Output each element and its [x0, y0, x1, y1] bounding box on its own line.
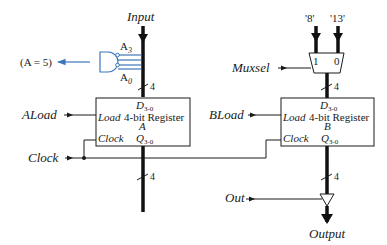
aload-label: ALoad — [21, 107, 57, 122]
register-b-load-label: Load — [282, 111, 306, 123]
bload-label: BLoad — [209, 107, 244, 122]
svg-text:4: 4 — [150, 171, 155, 182]
a3-label: A3 — [120, 40, 132, 55]
clock-label: Clock — [28, 150, 59, 165]
mux-to-b-bus: 4 — [321, 73, 339, 98]
a0-label: A0 — [120, 71, 132, 86]
input-bus — [138, 26, 148, 97]
bus-width-marker-input: 4 — [138, 81, 155, 92]
register-a-clock-label: Clock — [98, 132, 125, 144]
output-label: Output — [309, 226, 346, 241]
register-a-output-bus: 4 — [137, 146, 155, 212]
and-gate — [100, 52, 144, 72]
mux-inputs — [311, 26, 343, 53]
a-equals-5-label: (A = 5) — [20, 56, 52, 69]
input-label: Input — [126, 9, 155, 24]
register-b-output-bus: 4 — [321, 146, 339, 194]
svg-text:4: 4 — [150, 81, 155, 92]
out-label: Out — [225, 190, 245, 205]
svg-text:4: 4 — [334, 81, 339, 92]
mux-sel0-label: 0 — [334, 55, 340, 67]
register-a-name: 4-bit Register — [124, 111, 185, 123]
register-b-letter: B — [324, 120, 331, 132]
register-a-load-label: Load — [97, 111, 121, 123]
tristate-buffer — [320, 194, 334, 224]
mux-const-8: '8' — [305, 12, 314, 24]
register-b-name: 4-bit Register — [309, 111, 370, 123]
mux-sel1-label: 1 — [313, 55, 319, 67]
register-b-clock-label: Clock — [283, 132, 310, 144]
datapath-diagram: Input 4 A3 A0 (A = 5) D3-0 Load 4-bit Re… — [0, 0, 387, 245]
svg-text:4: 4 — [334, 171, 339, 182]
mux-const-13: '13' — [330, 12, 345, 24]
muxsel-label: Muxsel — [231, 60, 270, 75]
register-a-letter: A — [138, 120, 146, 132]
